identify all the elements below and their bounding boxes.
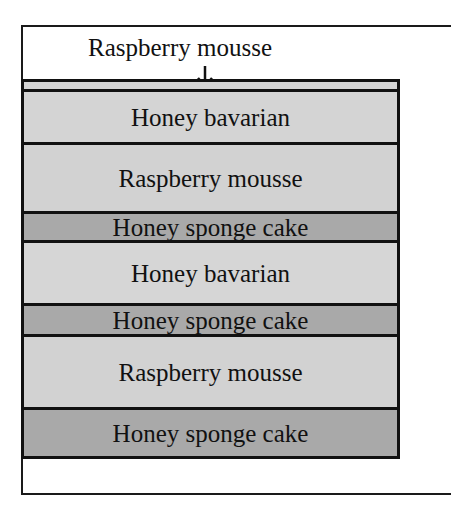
layer-label: Raspberry mousse [119,360,303,385]
layer-honey-bavarian-2: Honey bavarian [24,240,397,303]
layer-label: Honey sponge cake [113,308,309,333]
layer-label: Honey sponge cake [113,215,309,240]
layer-honey-sponge-cake-3: Honey sponge cake [24,407,397,459]
layer-honey-sponge-cake-1: Honey sponge cake [24,211,397,240]
layer-honey-bavarian-1: Honey bavarian [24,89,397,142]
layer-label: Honey bavarian [131,105,290,130]
layer-raspberry-mousse-2: Raspberry mousse [24,334,397,407]
layer-raspberry-mousse-1: Raspberry mousse [24,142,397,211]
layer-label: Honey bavarian [131,261,290,286]
layer-label: Raspberry mousse [119,166,303,191]
layer-label: Honey sponge cake [113,421,309,446]
cake-stack: Honey bavarian Raspberry mousse Honey sp… [21,79,400,459]
top-layer-label: Raspberry mousse [88,34,272,62]
layer-honey-sponge-cake-2: Honey sponge cake [24,303,397,334]
layer-thin-top [24,79,397,89]
